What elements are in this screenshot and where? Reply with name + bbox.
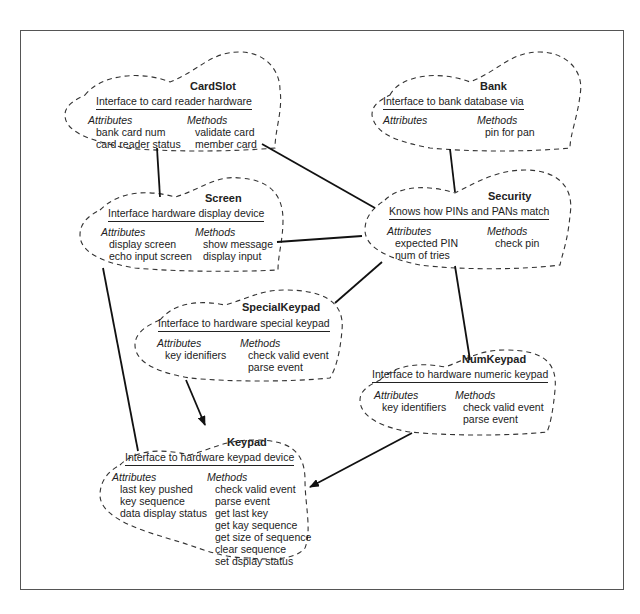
keypad-title: Keypad: [227, 436, 267, 448]
attribute: last key pushed: [112, 483, 207, 495]
methods-heading: Methods: [207, 471, 311, 483]
method: set dsplay status: [207, 555, 311, 567]
method: check pin: [487, 237, 539, 249]
method: display input: [195, 250, 273, 262]
numkeypad-attributes: Attributes key identifiers: [374, 389, 446, 413]
method: get last key: [207, 507, 311, 519]
methods-heading: Methods: [487, 225, 539, 237]
bank-title: Bank: [480, 80, 507, 92]
attribute: card reader status: [88, 138, 181, 150]
attributes-heading: Attributes: [374, 389, 446, 401]
method: pin for pan: [477, 126, 535, 138]
methods-heading: Methods: [187, 114, 257, 126]
arrow-numkeypad-keypad: [310, 433, 412, 487]
method: validate card: [187, 126, 257, 138]
attribute: num of tries: [387, 249, 458, 261]
link-screen-security: [277, 236, 362, 242]
keypad-attributes: Attributes last key pushed key sequence …: [112, 471, 207, 519]
cardslot-methods: Methods validate card member card: [187, 114, 257, 150]
link-cardslot-security: [262, 144, 375, 208]
attributes-heading: Attributes: [101, 226, 192, 238]
numkeypad-methods: Methods check valid event parse event: [455, 389, 544, 425]
methods-heading: Methods: [195, 226, 273, 238]
link-security-specialkeypad: [335, 262, 382, 303]
link-screen-keypad: [103, 268, 138, 451]
methods-heading: Methods: [240, 337, 329, 349]
attributes-heading: Attributes: [387, 225, 458, 237]
method: member card: [187, 138, 257, 150]
attribute: data display status: [112, 507, 207, 519]
cardslot-attributes: Attributes bank card num card reader sta…: [88, 114, 181, 150]
attribute: key idenifiers: [157, 349, 226, 361]
specialkeypad-title: SpecialKeypad: [242, 301, 320, 313]
cardslot-title: CardSlot: [190, 80, 236, 92]
specialkeypad-methods: Methods check valid event parse event: [240, 337, 329, 373]
method: clear sequence: [207, 543, 311, 555]
link-security-numkeypad: [455, 266, 470, 360]
method: get size of sequence: [207, 531, 311, 543]
security-description: Knows how PINs and PANs match: [389, 205, 549, 220]
method: parse event: [455, 413, 544, 425]
security-title: Security: [488, 190, 531, 202]
method: check valid event: [455, 401, 544, 413]
bank-description: Interface to bank database via: [383, 95, 524, 110]
screen-attributes: Attributes display screen echo input scr…: [101, 226, 192, 262]
methods-heading: Methods: [477, 114, 535, 126]
cardslot-description: Interface to card reader hardware: [96, 95, 252, 110]
attribute: key sequence: [112, 495, 207, 507]
attributes-heading: Attributes: [157, 337, 226, 349]
method: check valid event: [207, 483, 311, 495]
keypad-description: Interface to hardware keypad device: [125, 451, 294, 466]
specialkeypad-description: Interface to hardware special keypad: [158, 317, 330, 332]
attributes-heading: Attributes: [112, 471, 207, 483]
bank-attributes: Attributes: [383, 114, 427, 126]
attribute: expected PIN: [387, 237, 458, 249]
attribute: display screen: [101, 238, 192, 250]
numkeypad-title: NumKeypad: [462, 353, 526, 365]
attribute: echo input screen: [101, 250, 192, 262]
bank-methods: Methods pin for pan: [477, 114, 535, 138]
specialkeypad-attributes: Attributes key idenifiers: [157, 337, 226, 361]
security-attributes: Attributes expected PIN num of tries: [387, 225, 458, 261]
attributes-heading: Attributes: [383, 114, 427, 126]
method: show message: [195, 238, 273, 250]
attributes-heading: Attributes: [88, 114, 181, 126]
arrow-specialkeypad-keypad: [186, 380, 205, 425]
keypad-methods: Methods check valid event parse event ge…: [207, 471, 311, 567]
numkeypad-description: Interface to hardware numeric keypad: [372, 368, 548, 383]
security-methods: Methods check pin: [487, 225, 539, 249]
screen-title: Screen: [205, 192, 242, 204]
method: check valid event: [240, 349, 329, 361]
method: get kay sequence: [207, 519, 311, 531]
methods-heading: Methods: [455, 389, 544, 401]
link-cardslot-screen: [157, 148, 160, 197]
method: parse event: [240, 361, 329, 373]
screen-methods: Methods show message display input: [195, 226, 273, 262]
attribute: key identifiers: [374, 401, 446, 413]
screen-description: Interface hardware display device: [108, 207, 264, 222]
link-bank-security: [450, 149, 455, 192]
attribute: bank card num: [88, 126, 181, 138]
method: parse event: [207, 495, 311, 507]
